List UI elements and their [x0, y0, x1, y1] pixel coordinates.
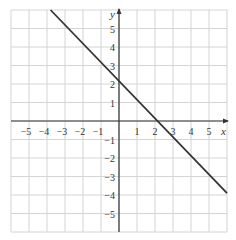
coordinate-plane: −5−4−3−2−11234554321−1−2−3−4−5 x y — [0, 0, 236, 240]
x-tick-label: 4 — [189, 126, 194, 137]
y-axis-label: y — [109, 8, 115, 20]
y-tick-label: 1 — [110, 98, 115, 109]
data-series — [51, 10, 227, 193]
x-tick-label: −3 — [57, 126, 68, 137]
x-tick-label: −5 — [21, 126, 32, 137]
y-axis-arrow-icon — [117, 8, 122, 14]
x-axis-label: x — [220, 125, 226, 137]
x-tick-label: −4 — [39, 126, 50, 137]
x-tick-label: 2 — [153, 126, 158, 137]
axes — [11, 8, 229, 232]
y-tick-label: −5 — [104, 209, 115, 220]
y-tick-label: 3 — [110, 61, 115, 72]
x-tick-label: −1 — [93, 126, 104, 137]
x-axis-arrow-icon — [223, 119, 229, 124]
y-tick-label: −3 — [104, 172, 115, 183]
x-tick-label: −2 — [75, 126, 86, 137]
y-tick-label: 4 — [110, 42, 115, 53]
y-tick-label: −1 — [104, 135, 115, 146]
x-tick-label: 5 — [207, 126, 212, 137]
y-tick-label: 5 — [110, 24, 115, 35]
y-tick-label: 2 — [110, 79, 115, 90]
x-tick-label: 1 — [135, 126, 140, 137]
y-tick-label: −4 — [104, 190, 115, 201]
data-line — [51, 10, 227, 193]
y-tick-label: −2 — [104, 153, 115, 164]
